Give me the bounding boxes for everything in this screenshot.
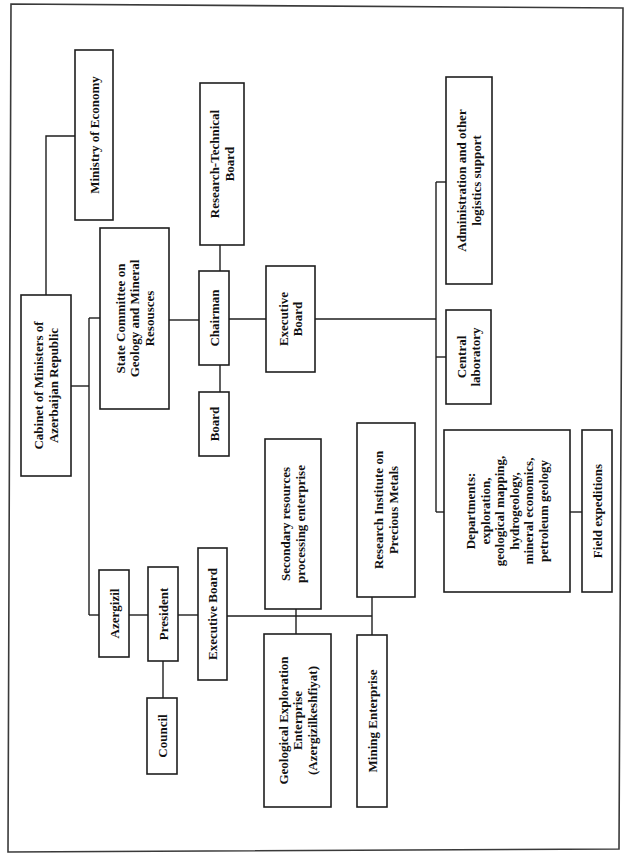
node-label-line: laboratory [468, 327, 483, 387]
node-research-technical-board: Research-TechnicalBoard [200, 83, 244, 245]
node-label-line: geological mapping, [492, 456, 507, 567]
node-mining-enterprise: Mining Enterprise [357, 635, 387, 807]
node-label-line: Chairman [207, 289, 222, 347]
node-label-line: Enterprise [290, 691, 305, 750]
node-geological-exploration: Geological ExplorationEnterprise(Azergiz… [264, 634, 331, 807]
node-label-line: Resousces [142, 291, 157, 347]
node-label-line: Administration and other [454, 109, 469, 252]
node-chairman: Chairman [199, 271, 229, 365]
node-label-line: mineral economics, [521, 458, 536, 565]
node-executive-board-sc: ExecutiveBoard [266, 266, 315, 372]
node-label: President [156, 587, 171, 640]
node-departments: Departments:exploration,geological mappi… [444, 430, 570, 592]
node-label: Council [155, 714, 170, 758]
node-azergizil: Azergizil [99, 570, 129, 657]
node-administration: Administration and otherlogistics suppor… [446, 77, 492, 284]
node-label: Research Institute onPrecious Metals [371, 450, 401, 569]
node-president: President [148, 567, 178, 661]
node-cabinet: Cabinet of Ministers ofAzerbaijan Republ… [21, 295, 71, 476]
connector-cabinet-ministry [46, 136, 75, 295]
node-label: Mining Enterprise [365, 669, 380, 772]
org-chart: Cabinet of Ministers ofAzerbaijan Republ… [0, 0, 638, 857]
node-label-line: Precious Metals [386, 466, 401, 554]
node-label-line: Mining Enterprise [365, 669, 380, 772]
node-central-lab: Centrallaboratory [446, 310, 491, 404]
node-label-line: Board [222, 146, 237, 181]
node-label-line: Central [454, 335, 469, 378]
node-label-line: Board [207, 406, 222, 441]
node-label-line: Research-Technical [207, 109, 222, 218]
node-label-line: State Committee on [113, 263, 128, 374]
node-label-line: Board [290, 301, 305, 336]
node-label-line: Geological Exploration [276, 656, 291, 785]
node-state-committee: State Committee onGeology and MineralRes… [100, 228, 169, 409]
node-label: Field expeditions [590, 464, 605, 558]
node-label-line: (Azergizilkeshfiyat) [305, 666, 320, 775]
node-label: Executive Board [205, 567, 220, 660]
node-label-line: President [156, 587, 171, 640]
node-label: Azergizil [107, 588, 122, 638]
node-label-line: Field expeditions [590, 464, 605, 558]
node-label: Board [207, 406, 222, 441]
node-label-line: Ministry of Economy [87, 76, 102, 194]
node-label-line: Departments: [463, 473, 478, 550]
node-secondary-resources: Secondary resourcesprocessing enterprise [265, 439, 321, 609]
node-label-line: hydrogeology, [507, 472, 522, 549]
node-ministry-economy: Ministry of Economy [75, 50, 113, 220]
node-field-expeditions: Field expeditions [582, 430, 612, 592]
node-research-institute: Research Institute onPrecious Metals [357, 423, 415, 597]
node-label: Chairman [207, 289, 222, 347]
node-label: Ministry of Economy [87, 76, 102, 194]
node-label-line: Research Institute on [371, 450, 386, 569]
node-label-line: Azerbaijan Republic [46, 328, 61, 443]
node-label-line: Executive Board [205, 567, 220, 660]
node-label: Cabinet of Ministers ofAzerbaijan Republ… [31, 321, 61, 450]
node-label-line: Executive [276, 292, 291, 346]
node-council: Council [147, 698, 177, 774]
node-label-line: Azergizil [107, 588, 122, 638]
node-label-line: exploration, [478, 478, 493, 545]
node-executive-board-az: Executive Board [198, 548, 227, 680]
node-label-line: Geology and Mineral [127, 259, 142, 377]
node-board: Board [199, 392, 229, 456]
node-label-line: petroleum geology [536, 460, 551, 562]
node-label-line: Cabinet of Ministers of [31, 321, 46, 450]
node-label: Centrallaboratory [454, 327, 484, 387]
node-label-line: Council [155, 714, 170, 758]
node-label-line: logistics support [469, 135, 484, 226]
node-label-line: processing enterprise [293, 465, 308, 583]
node-label-line: Secondary resources [278, 467, 293, 581]
node-label: Secondary resourcesprocessing enterprise [278, 465, 308, 583]
